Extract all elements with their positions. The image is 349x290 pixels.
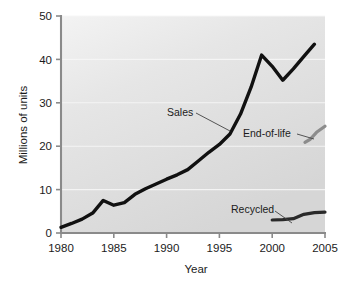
y-tick-label: 40 — [39, 54, 52, 66]
y-tick-label: 0 — [46, 227, 52, 239]
x-tick-label: 2005 — [312, 242, 338, 254]
x-tick-label: 1985 — [101, 242, 127, 254]
x-tick-label: 1995 — [207, 242, 233, 254]
x-tick-label: 2000 — [259, 242, 285, 254]
y-tick-label: 10 — [39, 184, 52, 196]
plot-background — [61, 16, 325, 233]
x-axis-title: Year — [184, 263, 207, 275]
y-axis-title: Millions of units — [17, 85, 29, 164]
x-tick-label: 1990 — [154, 242, 180, 254]
y-tick-label: 30 — [39, 97, 52, 109]
y-axis-tick-labels: 01020304050 — [39, 10, 52, 239]
x-tick-label: 1980 — [48, 242, 74, 254]
line-chart: 01020304050 198019851990199520002005 Sal… — [0, 0, 349, 290]
annotation-label-sales: Sales — [167, 106, 193, 118]
y-tick-label: 20 — [39, 140, 52, 152]
annotation-label-recycled: Recycled — [231, 203, 274, 215]
y-tick-label: 50 — [39, 10, 52, 22]
chart-container: 01020304050 198019851990199520002005 Sal… — [0, 0, 349, 290]
x-axis-tick-labels: 198019851990199520002005 — [48, 242, 338, 254]
annotation-label-end-of-life: End-of-life — [243, 127, 291, 139]
